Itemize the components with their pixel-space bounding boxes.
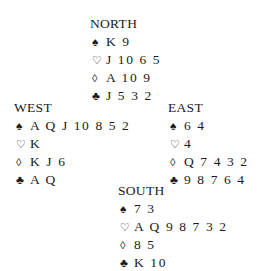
hand-west: WEST ♠A Q J 10 8 5 2 ♡K ◊K J 6 ♣A Q — [14, 99, 130, 189]
hand-title: NORTH — [90, 15, 161, 33]
hand-title: EAST — [168, 99, 249, 117]
card-holding: A Q J 10 8 5 2 — [30, 118, 130, 133]
card-holding: A Q 9 8 7 3 2 — [134, 219, 228, 234]
spade-icon: ♠ — [16, 117, 30, 135]
suit-row-clubs: ♣K 10 — [118, 254, 228, 271]
card-holding: K 9 — [106, 34, 131, 49]
heart-icon: ♡ — [170, 135, 184, 153]
diamond-icon: ◊ — [16, 153, 30, 171]
heart-icon: ♡ — [16, 135, 30, 153]
card-holding: K J 6 — [30, 154, 67, 169]
suit-row-spades: ♠6 4 — [168, 117, 249, 135]
card-holding: Q 7 4 3 2 — [184, 154, 249, 169]
diamond-icon: ◊ — [170, 153, 184, 171]
diamond-icon: ◊ — [92, 69, 106, 87]
card-holding: 8 5 — [134, 237, 156, 252]
card-holding: 6 4 — [184, 118, 206, 133]
heart-icon: ♡ — [120, 218, 134, 236]
spade-icon: ♠ — [92, 33, 106, 51]
card-holding: J 10 6 5 — [106, 52, 161, 67]
suit-row-hearts: ♡4 — [168, 135, 249, 153]
suit-row-spades: ♠A Q J 10 8 5 2 — [14, 117, 130, 135]
card-holding: 7 3 — [134, 201, 156, 216]
club-icon: ♣ — [16, 171, 30, 189]
hand-south: SOUTH ♠7 3 ♡A Q 9 8 7 3 2 ◊8 5 ♣K 10 — [118, 182, 228, 271]
card-holding: A Q — [30, 172, 57, 187]
hand-north: NORTH ♠K 9 ♡J 10 6 5 ◊A 10 9 ♣J 5 3 2 — [90, 15, 161, 105]
hand-title: WEST — [14, 99, 130, 117]
heart-icon: ♡ — [92, 51, 106, 69]
card-holding: K 10 — [134, 255, 167, 270]
spade-icon: ♠ — [170, 117, 184, 135]
spade-icon: ♠ — [120, 200, 134, 218]
suit-row-clubs: ♣A Q — [14, 171, 130, 189]
card-holding: A 10 9 — [106, 70, 152, 85]
suit-row-hearts: ♡K — [14, 135, 130, 153]
suit-row-diamonds: ◊8 5 — [118, 236, 228, 254]
diamond-icon: ◊ — [120, 236, 134, 254]
card-holding: K — [30, 136, 41, 151]
club-icon: ♣ — [120, 254, 134, 271]
card-holding: 4 — [184, 136, 192, 151]
suit-row-hearts: ♡A Q 9 8 7 3 2 — [118, 218, 228, 236]
suit-row-diamonds: ◊A 10 9 — [90, 69, 161, 87]
suit-row-diamonds: ◊Q 7 4 3 2 — [168, 153, 249, 171]
suit-row-spades: ♠7 3 — [118, 200, 228, 218]
hand-east: EAST ♠6 4 ♡4 ◊Q 7 4 3 2 ♣9 8 7 6 4 — [168, 99, 249, 189]
hand-title: SOUTH — [118, 182, 228, 200]
suit-row-hearts: ♡J 10 6 5 — [90, 51, 161, 69]
suit-row-spades: ♠K 9 — [90, 33, 161, 51]
suit-row-diamonds: ◊K J 6 — [14, 153, 130, 171]
